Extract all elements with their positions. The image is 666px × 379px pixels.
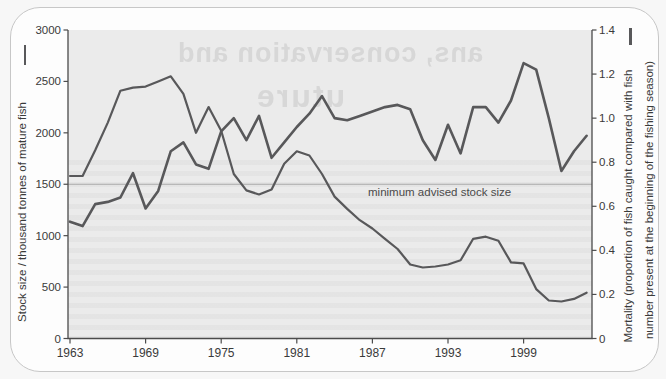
left-axis-label: Stock size / thousand tonnes of mature f… (16, 102, 28, 322)
x-axis-tick-label: 1969 (132, 346, 159, 360)
right-axis-tick-label: 0.4 (599, 244, 616, 256)
left-axis-tick-label: 2000 (35, 127, 61, 139)
left-axis-tick-label: 3000 (35, 24, 61, 36)
left-axis-tick-label: 0 (55, 333, 61, 345)
right-axis-tick-label: 0.2 (599, 288, 615, 300)
right-axis-tick-label: 0.6 (599, 200, 615, 212)
scanned-page: ans, conservation and uture 050010001500… (0, 0, 666, 379)
stock-line-legend-marker (24, 45, 26, 65)
right-axis-label-line2: number present at the beginning of the f… (643, 61, 655, 339)
mortality-line (70, 63, 587, 226)
minimum-stock-annotation: minimum advised stock size (368, 186, 511, 198)
left-axis-tick-label: 2500 (35, 75, 61, 87)
x-axis-tick-label: 1975 (208, 346, 235, 360)
x-axis-tick-label: 1963 (57, 346, 84, 360)
right-axis-tick-label: 1.4 (599, 24, 616, 36)
right-axis-tick-label: 1.0 (599, 112, 615, 124)
x-axis-tick-label: 1993 (435, 346, 462, 360)
right-axis-tick-label: 0.8 (599, 156, 615, 168)
x-axis-tick-label: 1981 (283, 346, 310, 360)
x-axis-tick-label: 1999 (510, 346, 537, 360)
left-axis-tick-label: 1500 (35, 178, 61, 190)
mortality-line-legend-marker (629, 28, 632, 45)
chart-canvas: 05001000150020002500300000.20.40.60.81.0… (0, 0, 666, 379)
left-axis-tick-label: 1000 (35, 230, 61, 242)
right-axis-tick-label: 1.2 (599, 68, 615, 80)
x-axis-tick-label: 1987 (359, 346, 386, 360)
right-axis-tick-label: 0 (599, 333, 605, 345)
left-axis-tick-label: 500 (42, 281, 61, 293)
right-axis-label-line1: Mortality (proportion of fish caught com… (622, 70, 634, 343)
